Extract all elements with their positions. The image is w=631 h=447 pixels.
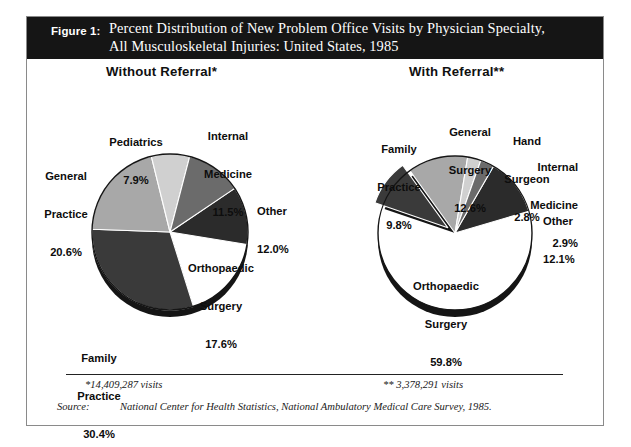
right-label-orthopaedic-surgery: Orthopaedic Surgery 59.8% — [398, 255, 494, 394]
left-label-general-practice: General Practice 20.6% — [24, 145, 108, 284]
footnote-left: *14,409,287 visits — [85, 379, 162, 390]
right-label-other: Other 12.1% — [543, 190, 605, 291]
title-line-1: Percent Distribution of New Problem Offi… — [109, 20, 595, 38]
figure-number: Figure 1: — [51, 25, 100, 37]
panel-heading-without-referral: Without Referral* — [106, 64, 217, 79]
left-label-orthopaedic-surgery: Orthopaedic Surgery 17.6% — [175, 237, 267, 376]
right-label-family-practice: Family Practice 9.8% — [360, 118, 438, 257]
footer-divider — [66, 374, 563, 375]
footnote-right: ** 3,378,291 visits — [383, 379, 463, 390]
figure-page: Figure 1: Percent Distribution of New Pr… — [0, 0, 631, 447]
panel-heading-with-referral: With Referral** — [409, 64, 504, 79]
title-line-2: All Musculoskeletal Injuries: United Sta… — [109, 38, 595, 56]
page-title: Percent Distribution of New Problem Offi… — [109, 20, 595, 55]
source-text: National Center for Health Statistics, N… — [120, 401, 492, 412]
source-label: Source: — [57, 401, 90, 412]
figure-title-bar: Figure 1: Percent Distribution of New Pr… — [27, 17, 603, 59]
